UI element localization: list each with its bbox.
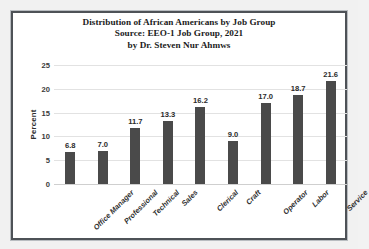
bar-value-label: 21.6: [323, 70, 338, 79]
bar: [293, 95, 303, 184]
x-axis-tick-label: Clerical: [214, 188, 239, 213]
bar-value-label: 13.3: [161, 110, 176, 119]
bar-group: 7.0: [87, 65, 120, 184]
y-axis-label: Percent: [29, 65, 41, 184]
bar: [261, 103, 271, 184]
bar: [98, 151, 108, 184]
bar-group: 16.2: [184, 65, 217, 184]
chart-title-line-3: by Dr. Steven Nur Ahmws: [13, 40, 345, 51]
chart-title-block: Distribution of African Americans by Job…: [13, 17, 345, 51]
bar-value-label: 9.0: [228, 130, 239, 139]
x-axis-tick-label: Labor: [310, 188, 331, 209]
bar-group: 21.6: [314, 65, 347, 184]
chart-title-line-1: Distribution of African Americans by Job…: [13, 17, 345, 28]
bar-group: 13.3: [152, 65, 185, 184]
y-axis-tick-label: 15: [42, 108, 50, 117]
bar-group: 18.7: [282, 65, 315, 184]
x-axis-tick-label: Operator: [281, 188, 309, 216]
bar-value-label: 6.8: [65, 141, 76, 150]
x-axis-tick-label: Craft: [244, 188, 263, 207]
bar-group: 6.8: [54, 65, 87, 184]
bar-value-label: 18.7: [291, 84, 306, 93]
bar-group: 11.7: [119, 65, 152, 184]
x-axis-tick-label: Office Manager: [92, 188, 136, 232]
plot-area: 05101520256.87.011.713.316.29.017.018.72…: [54, 65, 347, 184]
chart-frame: Distribution of African Americans by Job…: [11, 11, 347, 240]
bar: [228, 141, 238, 184]
y-axis-tick-label: 0: [46, 180, 50, 189]
bar: [195, 107, 205, 184]
gridline: [54, 184, 347, 185]
bar-value-label: 16.2: [193, 96, 208, 105]
bar: [326, 81, 336, 184]
bar: [163, 121, 173, 184]
y-axis-tick-label: 20: [42, 84, 50, 93]
bar: [130, 128, 140, 184]
bar-value-label: 17.0: [258, 92, 273, 101]
bar: [65, 152, 75, 184]
x-axis-tick-label: Service: [344, 188, 369, 213]
x-axis-tick-label: Sales: [180, 188, 200, 208]
bar-group: 17.0: [249, 65, 282, 184]
y-axis-tick-label: 10: [42, 132, 50, 141]
bar-value-label: 7.0: [98, 140, 109, 149]
bar-value-label: 11.7: [128, 117, 142, 126]
y-axis-tick-label: 5: [46, 156, 50, 165]
chart-title-line-2: Source: EEO-1 Job Group, 2021: [13, 28, 345, 39]
bar-group: 9.0: [217, 65, 250, 184]
y-axis-tick-label: 25: [42, 61, 50, 70]
